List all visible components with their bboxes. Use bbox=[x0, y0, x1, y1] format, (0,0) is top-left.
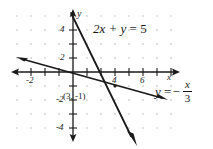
intersection-point-label: (3, -1) bbox=[63, 92, 86, 101]
equation-line2-minus: − bbox=[172, 84, 179, 100]
equation-line1-lhs: 2x + y bbox=[93, 21, 126, 36]
y-tick-label-2: 2 bbox=[60, 53, 65, 62]
y-tick-label-neg4: -4 bbox=[56, 123, 64, 132]
graph-figure: -2 4 6 4 2 -2 -4 y x (3, -1) 2x + y = 5 … bbox=[0, 0, 213, 149]
fraction-x-over-3: x 3 bbox=[183, 79, 193, 104]
equation-label-line2: y =− x 3 bbox=[155, 79, 192, 104]
steep-line-arrow-down bbox=[127, 131, 137, 146]
x-tick-label-6: 6 bbox=[140, 76, 145, 85]
fraction-numerator: x bbox=[183, 79, 192, 90]
equation-line1-rel: = bbox=[130, 21, 137, 36]
x-tick-label-neg2: -2 bbox=[26, 76, 34, 85]
equation-label-line1: 2x + y = 5 bbox=[93, 22, 147, 35]
y-axis-label: y bbox=[77, 9, 81, 19]
equation-line1-rhs: 5 bbox=[140, 21, 147, 36]
fraction-denominator: 3 bbox=[183, 93, 193, 104]
x-tick-label-4: 4 bbox=[112, 76, 117, 85]
equation-line2-rel: = bbox=[164, 84, 171, 100]
y-tick-label-4: 4 bbox=[60, 25, 65, 34]
